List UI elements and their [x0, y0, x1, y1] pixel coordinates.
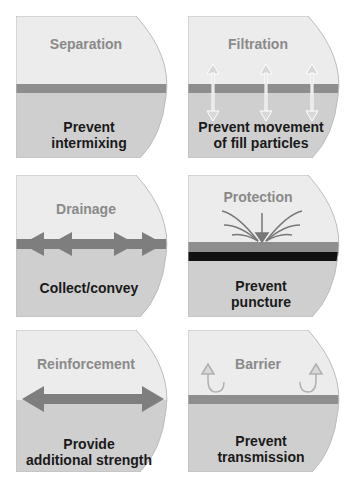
panel-caption-line1: Collect/convey: [16, 280, 162, 296]
panel-caption-line2: transmission: [188, 449, 334, 465]
geomembrane-layer-icon: [188, 395, 340, 404]
panel-title: Protection: [188, 189, 328, 205]
panel-reinforcement: Reinforcement Provide additional strengt…: [16, 330, 168, 472]
geotextile-layer-icon: [188, 84, 340, 93]
panel-protection: Protection Prevent puncture: [188, 175, 340, 317]
panel-caption-line1: Prevent: [188, 278, 334, 294]
panel-caption-line1: Provide: [16, 436, 162, 452]
panel-separation: Separation Prevent intermixing: [16, 16, 168, 158]
panel-filtration: Filtration Prevent movement of fill part…: [188, 16, 340, 158]
geotextile-layer-icon: [16, 84, 168, 93]
panel-caption-line1: Prevent: [188, 433, 334, 449]
panel-caption-line1: Prevent movement: [188, 119, 334, 135]
panel-caption-line2: puncture: [188, 294, 334, 310]
panel-title: Filtration: [188, 36, 328, 52]
panel-caption-line2: intermixing: [16, 135, 162, 151]
geomembrane-layer-icon: [188, 252, 340, 261]
panel-drainage: Drainage Collect/convey: [16, 175, 168, 317]
panel-title: Separation: [16, 36, 156, 52]
panel-caption-line1: Prevent: [16, 119, 162, 135]
panel-title: Drainage: [16, 201, 156, 217]
panel-title: Barrier: [188, 356, 328, 372]
panel-barrier: Barrier Prevent transmission: [188, 330, 340, 472]
panel-title: Reinforcement: [16, 356, 156, 372]
geotextile-layer-icon: [188, 242, 340, 252]
panel-caption-line2: of fill particles: [188, 135, 334, 151]
panel-caption-line2: additional strength: [16, 452, 162, 468]
